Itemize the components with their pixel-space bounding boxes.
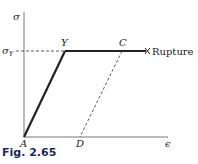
sigma-y-label: σY bbox=[2, 45, 15, 58]
point-y-label: Y bbox=[61, 37, 69, 48]
point-d-label: D bbox=[75, 138, 84, 149]
sigma-y-sub: Y bbox=[9, 50, 15, 58]
point-c-label: C bbox=[119, 37, 127, 48]
y-axis-label: σ bbox=[13, 11, 21, 22]
x-axis-label: ϵ bbox=[165, 138, 171, 149]
unloading-line bbox=[80, 51, 122, 137]
figure-caption: Fig. 2.65 bbox=[2, 146, 56, 159]
elastic-line bbox=[24, 51, 65, 137]
stress-strain-diagram: σ σY Y C Rupture A D ϵ bbox=[0, 0, 198, 164]
rupture-label: Rupture bbox=[152, 46, 194, 57]
